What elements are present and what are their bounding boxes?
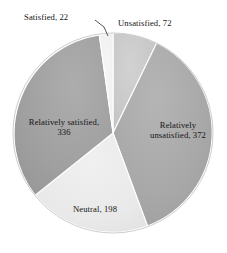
- pie-label-relatively-unsatisfied-line2: unsatisfied, 372: [134, 130, 222, 140]
- pie-label-unsatisfied-text: Unsatisfied, 72: [118, 18, 172, 28]
- pie-label-relatively-satisfied: Relatively satisfied, 336: [14, 117, 114, 137]
- pie-chart: Satisfied, 22 Unsatisfied, 72 Relatively…: [0, 0, 227, 253]
- pie-label-neutral-text: Neutral, 198: [52, 204, 138, 214]
- pie-label-satisfied-text: Satisfied, 22: [24, 12, 68, 22]
- pie-label-relatively-satisfied-line1: Relatively satisfied,: [14, 117, 114, 127]
- pie-label-neutral: Neutral, 198: [52, 204, 138, 214]
- pie-label-satisfied: Satisfied, 22: [24, 12, 68, 22]
- pie-label-relatively-unsatisfied: Relatively unsatisfied, 372: [134, 120, 222, 140]
- pie-label-unsatisfied: Unsatisfied, 72: [118, 18, 172, 28]
- pie-label-relatively-unsatisfied-line1: Relatively: [134, 120, 222, 130]
- pie-label-relatively-satisfied-line2: 336: [14, 127, 114, 137]
